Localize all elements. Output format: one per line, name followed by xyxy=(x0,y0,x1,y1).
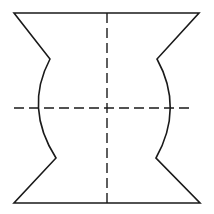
diagram-canvas xyxy=(0,0,214,214)
